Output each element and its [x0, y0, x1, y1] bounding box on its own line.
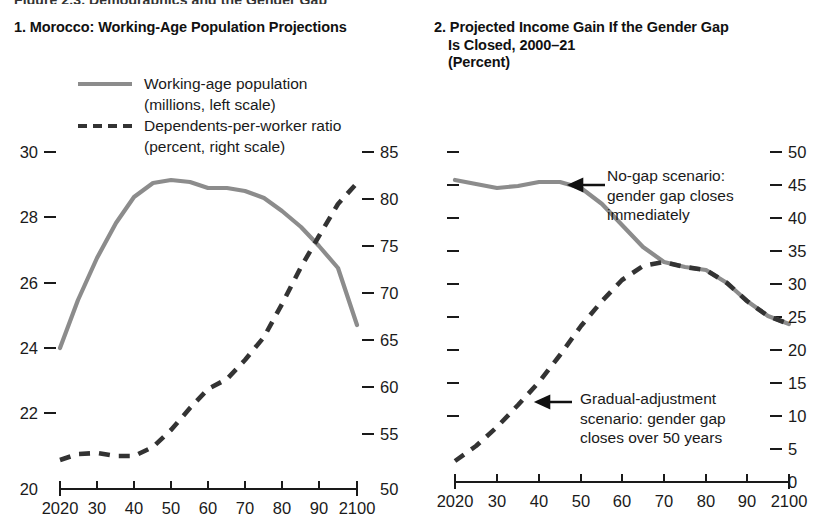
legend-entry-working-age-cont: (millions, left scale): [78, 94, 408, 115]
panel-2-x-tick-label-80: 80: [691, 493, 721, 509]
panel-1-right-tick-label-55: 55: [380, 426, 398, 442]
panel-1-left-tick-label-24: 24: [0, 340, 38, 356]
panel-2-left-ticks: [447, 152, 459, 416]
panel-1-left-tick-label-30: 30: [0, 144, 38, 160]
panel-2-x-tick-label-90: 90: [732, 493, 762, 509]
annotation-gradual-line-3: closes over 50 years: [580, 428, 770, 448]
legend-label-line-3: Dependents-per-worker ratio: [144, 115, 408, 136]
panel-2-tick-label-45: 45: [788, 177, 806, 193]
panel-1-plot: 30 28 26 24 22 20 85 80 75 70 65 60 55 5…: [0, 140, 420, 528]
panel-1-x-tick-label-70: 70: [230, 500, 260, 516]
annotation-no-gap-line-2: gender gap closes: [607, 186, 787, 206]
annotation-no-gap-scenario: No-gap scenario: gender gap closes immed…: [607, 166, 787, 225]
panel-2: 2. Projected Income Gain If the Gender G…: [420, 0, 819, 528]
panel-1-right-ticks: [362, 152, 374, 434]
legend-entry-working-age: Working-age population: [78, 73, 408, 94]
panel-1-left-tick-label-22: 22: [0, 405, 38, 421]
panel-2-x-tick-label-2100: 2100: [765, 493, 813, 509]
panel-1-left-tick-label-26: 26: [0, 275, 38, 291]
arrow-head-gradual: [537, 397, 549, 408]
panel-2-tick-label-25: 25: [788, 309, 806, 325]
panel-1-series-dependents-per-worker-ratio: [60, 183, 357, 460]
legend-solid-line-icon: [78, 82, 132, 86]
panel-2-x-tick-label-2020: 2020: [431, 493, 479, 509]
annotation-gradual-line-1: Gradual-adjustment: [580, 389, 770, 409]
panel-2-title-line-3: (Percent): [448, 54, 510, 70]
panel-1-right-tick-label-70: 70: [380, 285, 398, 301]
panel-2-tick-label-20: 20: [788, 342, 806, 358]
panel-1-x-tick-label-90: 90: [304, 500, 334, 516]
panel-2-tick-label-35: 35: [788, 243, 806, 259]
panel-1-x-tick-label-60: 60: [193, 500, 223, 516]
panel-1-x-tick-label-30: 30: [82, 500, 112, 516]
panel-1-x-tick-label-2100: 2100: [333, 500, 381, 516]
panel-2-x-tick-label-30: 30: [482, 493, 512, 509]
panel-2-x-axis: [455, 474, 789, 489]
annotation-no-gap-line-3: immediately: [607, 205, 787, 225]
panel-2-x-tick-label-70: 70: [649, 493, 679, 509]
panel-1-right-tick-label-80: 80: [380, 191, 398, 207]
panel-1-svg: [0, 140, 420, 528]
legend-label-line-2: (millions, left scale): [144, 94, 408, 115]
annotation-gradual-line-2: scenario: gender gap: [580, 409, 770, 429]
panel-1-right-tick-label-50: 50: [380, 481, 398, 497]
panel-1-right-tick-label-85: 85: [380, 144, 398, 160]
panel-1-series-working-age-population: [60, 180, 357, 348]
panel-2-x-tick-label-40: 40: [524, 493, 554, 509]
panel-2-tick-label-40: 40: [788, 210, 806, 226]
panel-2-tick-label-0: 0: [788, 474, 797, 490]
legend-dashed-line-icon: [78, 124, 132, 128]
panel-2-tick-label-10: 10: [788, 408, 806, 424]
panel-1-x-tick-label-80: 80: [267, 500, 297, 516]
panel-1-right-tick-label-60: 60: [380, 379, 398, 395]
panel-1-x-tick-label-2020: 2020: [36, 500, 84, 516]
annotation-gradual-adjustment-scenario: Gradual-adjustment scenario: gender gap …: [580, 389, 770, 448]
annotation-no-gap-line-1: No-gap scenario:: [607, 166, 787, 186]
legend-entry-dependents: Dependents-per-worker ratio: [78, 115, 408, 136]
arrow-head-no-gap: [570, 180, 582, 191]
panel-2-tick-label-50: 50: [788, 144, 806, 160]
legend-label-line-1: Working-age population: [144, 73, 408, 94]
panel-1-title: 1. Morocco: Working-Age Population Proje…: [14, 19, 368, 37]
panel-2-tick-label-5: 5: [788, 441, 797, 457]
panel-2-x-tick-label-60: 60: [607, 493, 637, 509]
panel-1-x-tick-label-40: 40: [119, 500, 149, 516]
panel-1: 1. Morocco: Working-Age Population Proje…: [0, 0, 420, 528]
panel-2-title-line-2: Is Closed, 2000–21: [448, 37, 575, 53]
panel-2-x-tick-label-50: 50: [566, 493, 596, 509]
panel-1-x-tick-label-50: 50: [156, 500, 186, 516]
panel-1-left-tick-label-28: 28: [0, 209, 38, 225]
panel-1-right-tick-label-75: 75: [380, 238, 398, 254]
panel-2-tick-label-30: 30: [788, 276, 806, 292]
panel-2-title: 2. Projected Income Gain If the Gender G…: [434, 19, 819, 72]
panel-1-title-text: 1. Morocco: Working-Age Population Proje…: [14, 19, 347, 35]
panel-2-tick-label-15: 15: [788, 375, 806, 391]
panel-1-left-tick-label-20: 20: [0, 481, 38, 497]
panel-1-right-tick-label-65: 65: [380, 332, 398, 348]
figure-container: Figure 2.3. Demographics and the Gender …: [0, 0, 819, 528]
panel-1-x-axis: [60, 481, 357, 496]
panel-1-left-ticks: [44, 152, 56, 413]
panel-2-title-line-1: 2. Projected Income Gain If the Gender G…: [434, 19, 729, 35]
